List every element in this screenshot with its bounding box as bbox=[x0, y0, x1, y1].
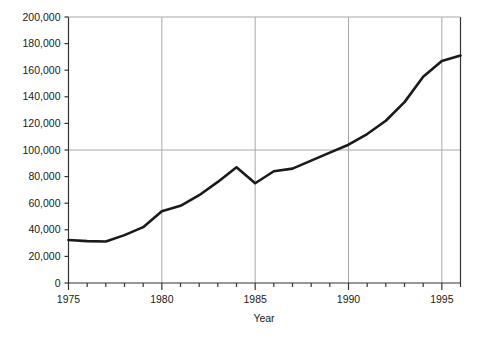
y-tick-label-60000: 60,000 bbox=[28, 197, 60, 209]
y-tick-label-80000: 80,000 bbox=[28, 170, 60, 182]
y-tick-label-0: 0 bbox=[55, 277, 61, 289]
y-tick-label-180000: 180,000 bbox=[23, 37, 61, 49]
y-tick-label-200000: 200,000 bbox=[23, 11, 61, 23]
x-tick-label-1985: 1985 bbox=[243, 293, 267, 305]
y-tick-label-160000: 160,000 bbox=[23, 64, 61, 76]
line-chart: 020,00040,00060,00080,000100,000120,0001… bbox=[0, 0, 481, 341]
x-tick-label-1975: 1975 bbox=[57, 293, 81, 305]
chart-container: 020,00040,00060,00080,000100,000120,0001… bbox=[0, 0, 481, 341]
y-tick-label-100000: 100,000 bbox=[23, 144, 61, 156]
x-tick-label-1980: 1980 bbox=[150, 293, 174, 305]
x-axis-title: Year bbox=[253, 312, 275, 324]
y-tick-label-140000: 140,000 bbox=[23, 90, 61, 102]
x-tick-label-1995: 1995 bbox=[430, 293, 454, 305]
y-tick-label-40000: 40,000 bbox=[28, 223, 60, 235]
x-tick-label-1990: 1990 bbox=[337, 293, 361, 305]
y-tick-label-20000: 20,000 bbox=[28, 250, 60, 262]
y-tick-label-120000: 120,000 bbox=[23, 117, 61, 129]
